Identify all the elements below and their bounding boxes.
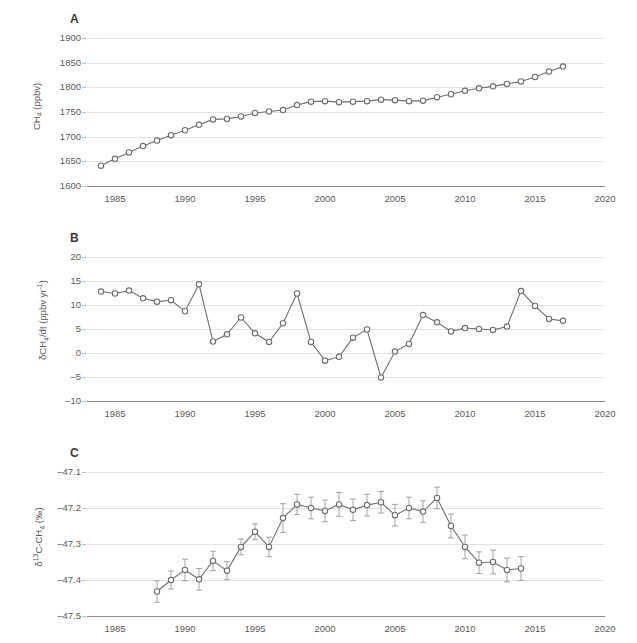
y-axis-tick-mark xyxy=(82,353,86,354)
y-axis-tick-mark xyxy=(82,112,86,113)
plot-area-panel-b xyxy=(87,257,605,401)
data-point-marker xyxy=(392,349,397,354)
x-axis-tick-label: 1990 xyxy=(155,409,215,419)
y-axis-tick-label: 10 xyxy=(35,300,81,310)
data-point-marker xyxy=(392,513,397,518)
data-point-marker xyxy=(476,560,481,565)
x-axis-tick-label: 1990 xyxy=(155,624,215,634)
data-point-marker xyxy=(98,289,103,294)
data-point-marker xyxy=(336,502,341,507)
data-point-marker xyxy=(140,296,145,301)
data-point-marker xyxy=(504,324,509,329)
y-axis-tick-label: –47.1 xyxy=(35,467,81,477)
data-point-marker xyxy=(518,79,523,84)
data-point-marker xyxy=(490,327,495,332)
y-axis-tick-label: 1800 xyxy=(35,82,81,92)
data-point-marker xyxy=(140,143,145,148)
data-point-marker xyxy=(546,69,551,74)
data-point-marker xyxy=(336,354,341,359)
data-point-marker xyxy=(532,74,537,79)
figure-root: A CH4 (ppbv) 160016501700175018001850190… xyxy=(0,0,637,643)
data-point-marker xyxy=(504,567,509,572)
data-point-marker xyxy=(112,156,117,161)
data-point-marker xyxy=(462,88,467,93)
data-point-marker xyxy=(322,98,327,103)
y-axis-tick-mark xyxy=(82,63,86,64)
data-point-marker xyxy=(406,98,411,103)
data-point-marker xyxy=(252,529,257,534)
x-axis-tick-label: 1995 xyxy=(225,194,285,204)
y-axis-tick-label: –10 xyxy=(35,396,81,406)
y-axis-tick-mark xyxy=(82,137,86,138)
y-axis-tick-mark xyxy=(82,305,86,306)
y-axis-tick-label: –47.4 xyxy=(35,575,81,585)
data-point-marker xyxy=(518,566,523,571)
x-axis-tick-label: 2010 xyxy=(435,624,495,634)
y-axis-tick-mark xyxy=(82,87,86,88)
x-axis-tick-label: 1995 xyxy=(225,409,285,419)
data-point-marker xyxy=(238,315,243,320)
x-axis-tick-label: 1985 xyxy=(85,194,145,204)
y-axis-tick-label: –5 xyxy=(35,372,81,382)
data-point-marker xyxy=(476,326,481,331)
data-point-marker xyxy=(364,327,369,332)
data-point-marker xyxy=(252,331,257,336)
x-axis-tick-label: 2010 xyxy=(435,194,495,204)
data-point-marker xyxy=(462,544,467,549)
y-axis-tick-mark xyxy=(82,472,86,473)
data-point-marker xyxy=(182,128,187,133)
y-axis-tick-mark xyxy=(82,38,86,39)
data-point-marker xyxy=(224,568,229,573)
data-point-marker xyxy=(420,98,425,103)
x-axis-tick-label: 2000 xyxy=(295,409,355,419)
data-point-marker xyxy=(532,303,537,308)
y-axis-tick-label: 1750 xyxy=(35,107,81,117)
data-point-marker xyxy=(434,320,439,325)
data-point-marker xyxy=(560,64,565,69)
data-point-marker xyxy=(378,375,383,380)
data-point-marker xyxy=(168,298,173,303)
x-axis-tick-label: 1985 xyxy=(85,624,145,634)
y-axis-tick-label: 1900 xyxy=(35,33,81,43)
panel-b: B δCH4/dt (ppbv yr-1) –10–505101520 1985… xyxy=(0,215,637,430)
y-axis-tick-mark xyxy=(82,508,86,509)
y-axis-tick-label: –47.3 xyxy=(35,539,81,549)
data-series-svg xyxy=(87,257,605,401)
y-axis-tick-mark xyxy=(82,329,86,330)
data-point-marker xyxy=(378,97,383,102)
data-point-marker xyxy=(252,110,257,115)
data-point-marker xyxy=(350,507,355,512)
panel-letter-a: A xyxy=(70,12,79,26)
data-point-marker xyxy=(280,321,285,326)
data-point-marker xyxy=(448,329,453,334)
y-axis-tick-label: –47.5 xyxy=(35,611,81,621)
data-point-marker xyxy=(420,509,425,514)
x-axis-tick-label: 2015 xyxy=(505,624,565,634)
data-point-marker xyxy=(350,335,355,340)
y-axis-tick-mark xyxy=(82,281,86,282)
y-axis-tick-mark xyxy=(82,161,86,162)
data-point-marker xyxy=(518,288,523,293)
data-point-marker xyxy=(196,577,201,582)
data-point-marker xyxy=(126,150,131,155)
plot-area-panel-c xyxy=(87,472,605,616)
y-axis-tick-label: 15 xyxy=(35,276,81,286)
y-axis-tick-mark xyxy=(82,186,86,187)
data-point-marker xyxy=(266,109,271,114)
y-axis-tick-label: –47.2 xyxy=(35,503,81,513)
data-point-marker xyxy=(322,358,327,363)
x-axis-tick-label: 2005 xyxy=(365,409,425,419)
data-point-marker xyxy=(476,86,481,91)
y-axis-tick-label: 1700 xyxy=(35,132,81,142)
data-point-marker xyxy=(294,502,299,507)
y-axis-tick-mark xyxy=(82,580,86,581)
data-point-marker xyxy=(168,577,173,582)
data-point-marker xyxy=(182,567,187,572)
x-axis-tick-label: 2005 xyxy=(365,194,425,204)
y-axis-tick-mark xyxy=(82,544,86,545)
x-axis-tick-label: 1990 xyxy=(155,194,215,204)
data-point-marker xyxy=(434,495,439,500)
x-axis-tick-label: 2020 xyxy=(575,624,635,634)
data-point-marker xyxy=(378,500,383,505)
data-point-marker xyxy=(98,163,103,168)
